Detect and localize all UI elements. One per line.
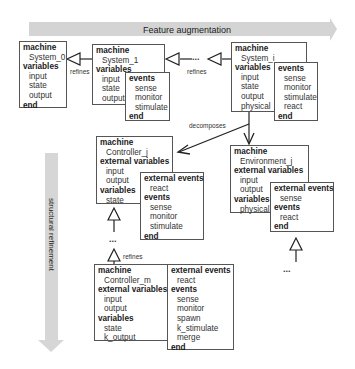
- events-system-1: events sense monitor stimulate end: [125, 72, 170, 121]
- machine-name: Controller_m: [98, 276, 167, 286]
- keyword-end: end: [144, 232, 200, 242]
- event: stimulate: [144, 222, 200, 232]
- events-system-i: events sense monitor stimulate react end: [274, 62, 318, 121]
- keyword-variables: variables: [98, 314, 167, 324]
- event: k_stimulate: [171, 324, 230, 334]
- variable: k_output: [98, 333, 167, 343]
- event: sense: [129, 84, 166, 94]
- external-variable: input: [98, 295, 167, 305]
- event: spawn: [171, 314, 230, 324]
- keyword-events: events: [274, 203, 330, 213]
- feature-augmentation-label: Feature augmentation: [143, 25, 231, 35]
- event: sense: [144, 203, 200, 213]
- structural-refinement-label: structural refinement: [47, 198, 56, 271]
- machine-name: System_0: [23, 53, 63, 63]
- variable: state: [23, 81, 63, 91]
- keyword-events: events: [171, 285, 230, 295]
- machine-system-0: machine System_0 variables input state o…: [19, 41, 67, 108]
- keyword-events: events: [129, 74, 166, 84]
- machine-controller-m: machine Controller_m external variables …: [94, 264, 171, 341]
- keyword-end: end: [23, 101, 63, 111]
- event: react: [274, 213, 330, 223]
- machine-name: Controller_j: [100, 148, 169, 158]
- keyword-machine: machine: [234, 147, 305, 157]
- refines-label: refines: [123, 253, 143, 260]
- machine-name: System_1: [96, 56, 161, 66]
- variable: state: [98, 324, 167, 334]
- keyword-events: events: [278, 64, 314, 74]
- events-environment-j: external events sense events react end: [270, 182, 334, 232]
- keyword-machine: machine: [98, 266, 167, 276]
- event: monitor: [171, 304, 230, 314]
- external-event: react: [171, 276, 230, 286]
- refines-label: refines: [187, 68, 207, 75]
- keyword-external-events: external events: [171, 266, 230, 276]
- event: stimulate: [278, 93, 314, 103]
- ellipsis: ...: [109, 234, 117, 244]
- external-event: react: [144, 184, 200, 194]
- ellipsis: ...: [192, 52, 200, 62]
- decomposes-label: decomposes: [189, 122, 226, 129]
- keyword-end: end: [274, 222, 330, 232]
- keyword-events: events: [144, 193, 200, 203]
- variable: input: [23, 72, 63, 82]
- machine-name: Environment_j: [234, 157, 305, 167]
- keyword-end: end: [171, 343, 230, 353]
- ellipsis: ...: [283, 264, 291, 274]
- keyword-external-variables: external variables: [234, 166, 305, 176]
- keyword-machine: machine: [96, 46, 161, 56]
- event: sense: [171, 295, 230, 305]
- keyword-external-variables: external variables: [100, 157, 169, 167]
- event: monitor: [278, 83, 314, 93]
- keyword-machine: machine: [23, 43, 63, 53]
- external-variable: output: [98, 304, 167, 314]
- event: react: [278, 102, 314, 112]
- event: merge: [171, 333, 230, 343]
- event: monitor: [144, 212, 200, 222]
- events-controller-j: external events react events sense monit…: [140, 172, 204, 240]
- event: monitor: [129, 93, 166, 103]
- keyword-variables: variables: [23, 62, 63, 72]
- keyword-end: end: [278, 112, 314, 122]
- keyword-machine: machine: [100, 138, 169, 148]
- keyword-machine: machine: [235, 44, 303, 54]
- variable: output: [23, 91, 63, 101]
- external-event: sense: [274, 194, 330, 204]
- keyword-external-events: external events: [274, 184, 330, 194]
- event: sense: [278, 74, 314, 84]
- event: stimulate: [129, 103, 166, 113]
- events-controller-m: external events react events sense monit…: [167, 264, 234, 350]
- keyword-external-events: external events: [144, 174, 200, 184]
- keyword-end: end: [129, 112, 166, 122]
- keyword-external-variables: external variables: [98, 285, 167, 295]
- refines-label: refines: [70, 68, 90, 75]
